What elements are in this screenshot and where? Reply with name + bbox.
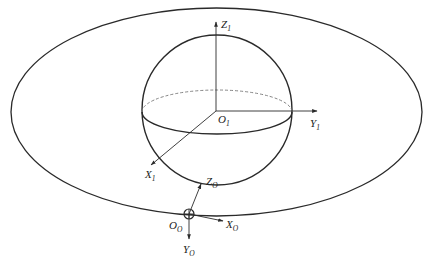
- x1-axis-arrow: [151, 111, 216, 165]
- equator-front: [142, 112, 292, 134]
- sphere-outline: [142, 35, 292, 185]
- yo-label: YO: [183, 243, 195, 258]
- oo-label: OO: [169, 219, 183, 234]
- o1-label: O1: [218, 113, 230, 128]
- zo-label: ZO: [206, 175, 218, 190]
- zo-axis-arrow: [189, 184, 201, 214]
- xo-label: XO: [225, 218, 239, 233]
- y1-label: Y1: [310, 117, 320, 132]
- z1-label: Z1: [221, 18, 231, 33]
- xo-axis-arrow: [189, 214, 223, 221]
- equator-back-dashed: [142, 90, 292, 112]
- coordinate-frame-diagram: Z1 Y1 X1 O1 ZO XO YO OO: [0, 0, 429, 266]
- x1-label: X1: [144, 168, 155, 183]
